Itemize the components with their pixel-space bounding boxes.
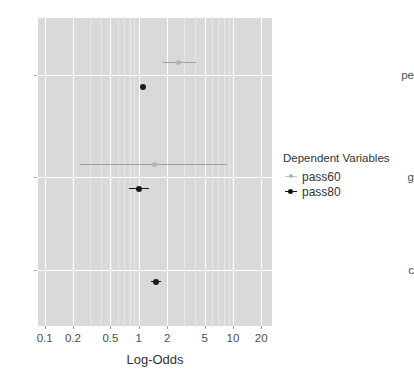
chart-root: pe g c 0.10.20.51251020 Log-Odds Depende… (0, 0, 414, 382)
x-gridline-minor (184, 18, 185, 326)
x-tick-label: 2 (147, 333, 187, 345)
x-tick-mark (205, 326, 206, 329)
y-tick-mark-c (34, 270, 37, 271)
legend-key-pass80-icon (283, 185, 299, 199)
x-tick-mark (110, 326, 111, 329)
y-tick-mark-pe (34, 75, 37, 76)
data-point-pass80-pe[interactable] (140, 84, 146, 90)
x-gridline-major (233, 18, 234, 326)
x-gridline-minor (229, 18, 230, 326)
y-gridline-pe (38, 75, 272, 76)
data-point-pass60-pe[interactable] (176, 60, 181, 65)
x-gridline-major (139, 18, 140, 326)
x-tick-label: 0.2 (53, 333, 93, 345)
x-tick-mark (73, 326, 74, 329)
y-axis-label-pe: pe (381, 70, 414, 82)
legend-title: Dependent Variables (283, 152, 411, 164)
x-gridline-minor (118, 18, 119, 326)
x-gridline-major (167, 18, 168, 326)
x-gridline-major (261, 18, 262, 326)
x-tick-mark (261, 326, 262, 329)
y-gridline-g (38, 177, 272, 178)
x-gridline-minor (130, 18, 131, 326)
legend-label-pass60: pass60 (302, 170, 341, 184)
x-tick-mark (233, 326, 234, 329)
x-tick-mark (45, 326, 46, 329)
x-gridline-minor (124, 18, 125, 326)
y-gridline-c (38, 270, 272, 271)
x-gridline-minor (101, 18, 102, 326)
x-gridline-minor (134, 18, 135, 326)
data-point-pass80-c[interactable] (153, 279, 159, 285)
x-tick-mark (139, 326, 140, 329)
data-point-pass60-g[interactable] (152, 162, 157, 167)
legend-label-pass80: pass80 (302, 185, 341, 199)
x-gridline-minor (212, 18, 213, 326)
x-gridline-major (45, 18, 46, 326)
data-point-pass80-g[interactable] (136, 186, 142, 192)
x-gridline-major (205, 18, 206, 326)
x-gridline-major (110, 18, 111, 326)
x-axis-title: Log-Odds (0, 352, 310, 367)
x-tick-label: 20 (241, 333, 281, 345)
x-gridline-minor (90, 18, 91, 326)
plot-panel (38, 18, 272, 326)
x-gridline-major (73, 18, 74, 326)
x-gridline-minor (218, 18, 219, 326)
x-gridline-minor (224, 18, 225, 326)
y-axis-label-c: c (381, 265, 414, 277)
x-tick-mark (167, 326, 168, 329)
x-gridline-minor (195, 18, 196, 326)
legend-item-pass80[interactable]: pass80 (283, 184, 411, 199)
legend-key-pass60-icon (283, 170, 299, 184)
y-tick-mark-g (34, 177, 37, 178)
legend: Dependent Variables pass60 pass80 (283, 152, 411, 199)
legend-item-pass60[interactable]: pass60 (283, 169, 411, 184)
